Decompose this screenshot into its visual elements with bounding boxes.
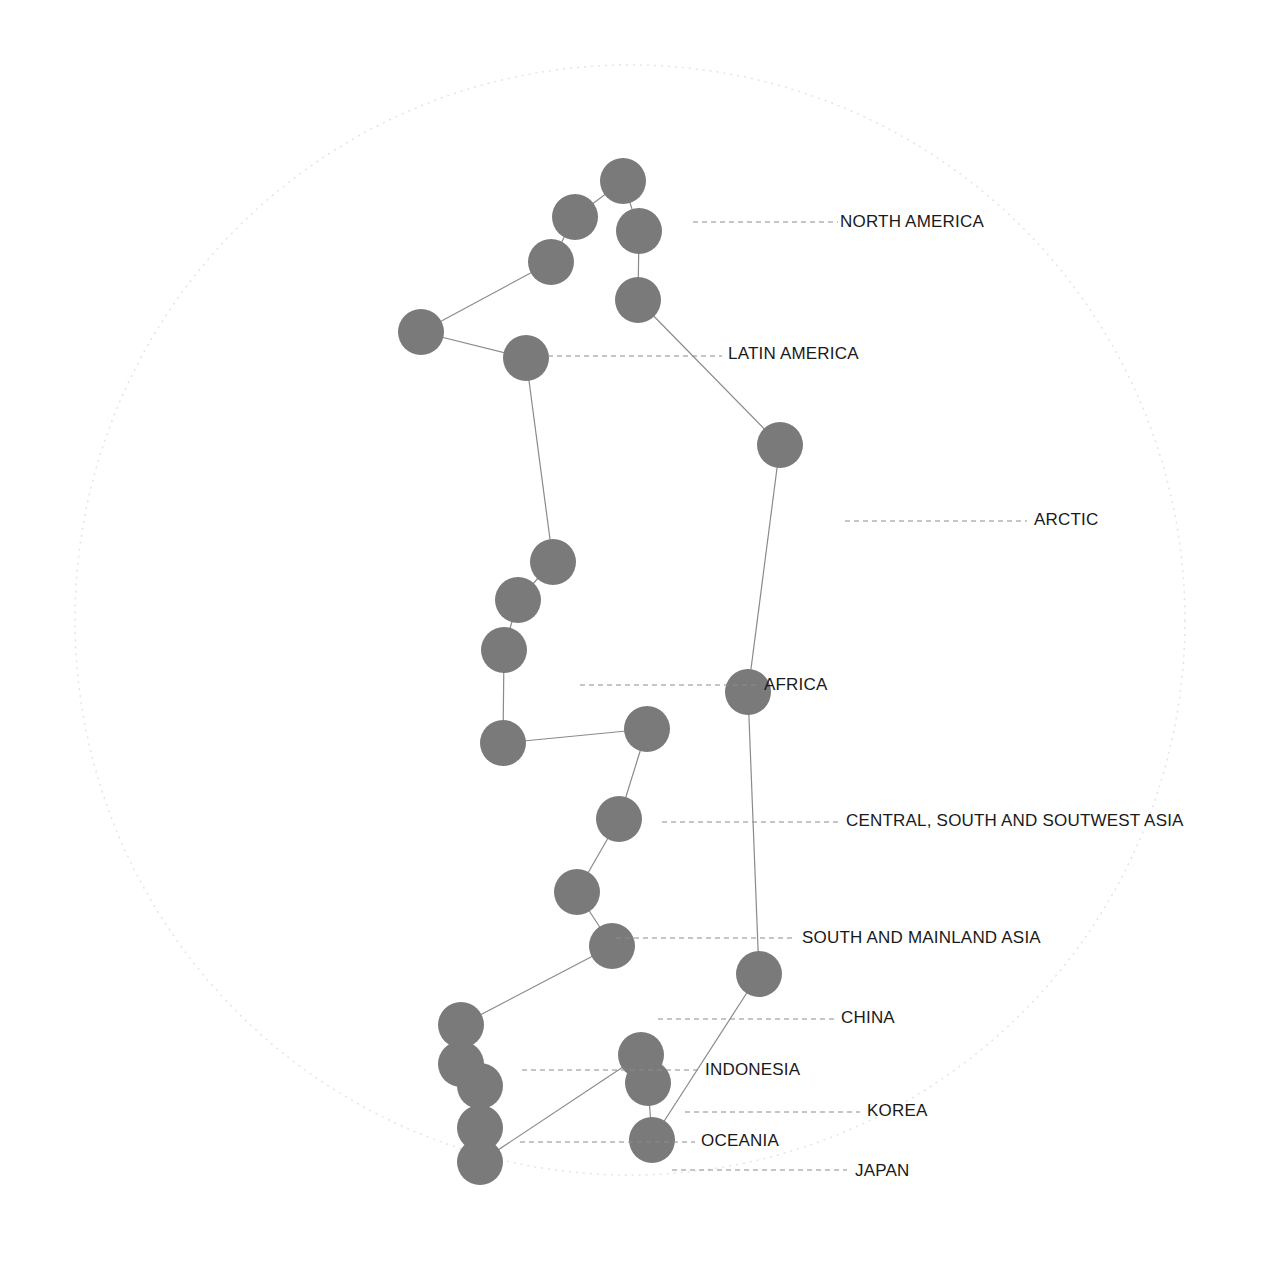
node-n5 (503, 335, 549, 381)
label-north-america: NORTH AMERICA (840, 212, 984, 231)
label-indonesia: INDONESIA (705, 1060, 801, 1079)
label-japan: JAPAN (855, 1161, 910, 1180)
edge-n7-n8 (638, 300, 780, 445)
node-n17 (589, 923, 635, 969)
node-n1 (600, 158, 646, 204)
label-africa: AFRICA (764, 675, 828, 694)
node-n3 (528, 239, 574, 285)
label-leader-lines (520, 222, 1027, 1170)
edge-n8-n14 (748, 445, 780, 692)
label-arctic: ARCTIC (1034, 510, 1098, 529)
node-n23 (457, 1139, 503, 1185)
node-n12 (480, 720, 526, 766)
node-n9 (530, 539, 576, 585)
node-n11 (481, 627, 527, 673)
edge-n9-n5 (526, 358, 553, 562)
edge-n18-n26 (652, 974, 759, 1140)
label-oceania: OCEANIA (701, 1131, 779, 1150)
label-korea: KOREA (867, 1101, 928, 1120)
node-n18 (736, 951, 782, 997)
node-n25 (625, 1060, 671, 1106)
node-n21 (457, 1063, 503, 1109)
node-n15 (596, 796, 642, 842)
node-n13 (624, 706, 670, 752)
node-n6 (616, 208, 662, 254)
node-n8 (757, 422, 803, 468)
region-labels: NORTH AMERICA LATIN AMERICA ARCTIC AFRIC… (701, 212, 1184, 1180)
edge-n19-n17 (461, 946, 612, 1025)
node-n2 (552, 194, 598, 240)
label-south-mainland-asia: SOUTH AND MAINLAND ASIA (802, 928, 1041, 947)
label-central-south-southwest-asia: CENTRAL, SOUTH AND SOUTWEST ASIA (846, 811, 1184, 830)
node-n7 (615, 277, 661, 323)
node-n4 (398, 309, 444, 355)
label-china: CHINA (841, 1008, 895, 1027)
edge-n14-n18 (748, 692, 759, 974)
edge-n24-n23 (480, 1055, 641, 1162)
label-latin-america: LATIN AMERICA (728, 344, 859, 363)
node-n10 (495, 577, 541, 623)
node-n26 (629, 1117, 675, 1163)
node-n16 (554, 869, 600, 915)
region-network-diagram: NORTH AMERICA LATIN AMERICA ARCTIC AFRIC… (0, 0, 1279, 1273)
